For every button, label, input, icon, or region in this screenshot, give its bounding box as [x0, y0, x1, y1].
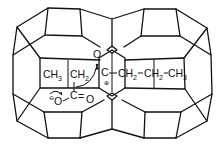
framework-oxygen-label: O [93, 48, 101, 60]
carboxylate-o-minus: O [54, 95, 62, 107]
right-ch3-label: CH [168, 67, 183, 79]
right-ch2-1-subscript: 2 [133, 74, 137, 81]
right-ch2-2-subscript: 2 [159, 74, 163, 81]
right-chain: CH 2 CH 2 CH 3 [118, 67, 187, 81]
dot-marker [96, 64, 98, 66]
ch3-label: CH [43, 68, 58, 80]
right-ch3-subscript: 3 [183, 74, 187, 81]
zeolite-cage-diagram: CH 3 CH 2 O C ⊕ CH 2 CH 2 CH 3 ⊖ O C = O [0, 0, 224, 149]
right-ch2-1-label: CH [118, 67, 133, 79]
left-chain: CH 3 CH 2 [43, 68, 89, 82]
carboxylate-carbon: C [70, 89, 78, 101]
ch3-subscript: 3 [58, 75, 62, 82]
ch2-subscript: 2 [85, 75, 89, 82]
carboxylate-o: O [86, 93, 94, 105]
carbocation: C ⊕ [101, 66, 117, 86]
right-ch2-2-label: CH [144, 67, 159, 79]
center-carbon-label: C [101, 66, 109, 78]
ch2-label: CH [70, 68, 85, 80]
carboxylate-group: ⊖ O C = O [49, 82, 94, 107]
double-bond: = [78, 90, 84, 102]
positive-charge-icon: ⊕ [104, 80, 109, 86]
